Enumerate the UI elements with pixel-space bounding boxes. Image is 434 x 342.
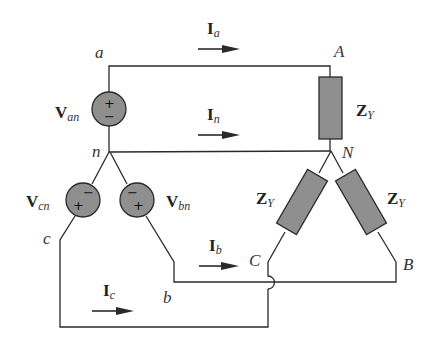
wire-zyB-to-B [378,232,396,262]
circuit-diagram: + − − + − + a A n N c b C B Van [0,0,434,342]
label-vcn: Vcn [26,192,50,213]
label-ia: Ia [207,19,220,40]
node-label-N: N [341,143,355,162]
label-van: Van [55,103,79,124]
label-zy-AN: ZY [356,101,375,122]
svg-text:−: − [104,109,115,124]
arrow-ic-icon [92,307,134,315]
source-vcn: − + [66,183,100,217]
wire-n-to-vbn [110,152,127,184]
source-van: + − [92,92,126,126]
wire-N-to-zyC [319,151,331,173]
node-label-a: a [95,43,104,62]
impedance-zy-AN [319,77,342,139]
svg-text:+: + [133,198,144,213]
arrow-in-icon [198,131,240,139]
node-label-B: B [403,255,414,274]
source-vbn: − + [120,183,154,217]
wire-b-line [146,216,396,282]
node-label-c: c [43,229,51,248]
node-label-C: C [249,251,261,270]
impedance-zy-CN [277,169,328,234]
arrow-ib-icon [199,262,239,270]
node-label-A: A [333,42,345,61]
node-label-b: b [163,288,172,307]
wire-neutral [109,151,331,152]
label-ic: Ic [103,281,116,302]
wire-zyC-to-C [268,232,285,262]
label-vbn: Vbn [166,192,190,213]
label-zy-CN: ZY [256,189,275,210]
arrow-ia-icon [198,45,240,53]
wire-a-to-A [109,66,330,92]
impedance-zy-BN [336,169,387,234]
label-zy-BN: ZY [387,189,406,210]
label-in: In [207,105,220,126]
wire-c-line [60,216,268,327]
svg-text:+: + [73,198,84,213]
svg-text:−: − [83,185,94,200]
label-ib: Ib [209,236,222,257]
wire-C-hop [268,262,275,289]
node-label-n: n [92,142,101,161]
